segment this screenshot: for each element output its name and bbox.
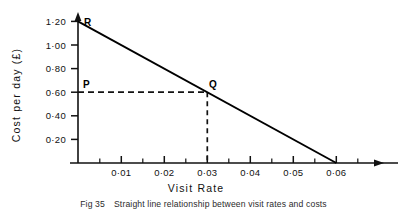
y-tick-label-0-40: 0·40 [46,110,66,121]
x-axis [70,160,398,167]
y-axis-ticks [71,21,78,139]
y-tick-label-1-00: 1·00 [46,40,66,51]
x-axis-arrowhead-icon [374,160,384,167]
x-tick-label-0-03: 0·03 [197,167,217,178]
caption-figure-text: Straight line relationship between visit… [114,199,327,209]
x-tick-label-0-05: 0·05 [283,167,303,178]
point-label-r: R [84,17,92,28]
x-axis-title: Visit Rate [168,182,225,194]
y-axis-title: Cost per day (£) [10,48,22,142]
caption-figure-number: Fig 35 [80,199,105,209]
point-label-q: Q [209,79,217,90]
x-tick-label-0-06: 0·06 [326,167,346,178]
chart-canvas: 1·20 1·00 0·80 0·60 0·40 0·20 0·01 0·02 [0,0,407,218]
y-tick-label-0-80: 0·80 [46,63,66,74]
y-axis-arrowhead-icon [75,12,82,21]
x-tick-label-0-02: 0·02 [154,167,174,178]
figure-container: 1·20 1·00 0·80 0·60 0·40 0·20 0·01 0·02 [0,0,407,218]
y-tick-label-1-20: 1·20 [46,16,66,27]
y-tick-label-0-60: 0·60 [46,87,66,98]
y-axis [75,12,82,163]
x-tick-label-0-04: 0·04 [240,167,260,178]
x-tick-label-0-01: 0·01 [111,167,131,178]
point-label-p: P [83,79,90,90]
y-tick-label-0-20: 0·20 [46,134,66,145]
figure-caption: Fig 35Straight line relationship between… [0,199,407,209]
